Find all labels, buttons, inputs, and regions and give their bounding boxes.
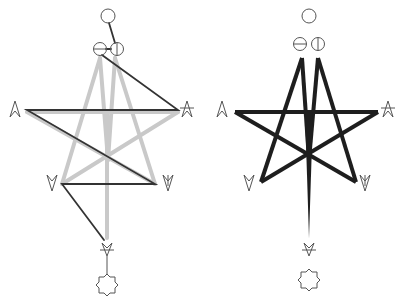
left-arrowhead-barred-icon [180, 101, 194, 117]
left-phi-circle-icon [111, 43, 124, 56]
right-arrowhead-up-icon [217, 101, 227, 117]
left-panel [10, 9, 194, 296]
left-bottom-arrowhead-icon [100, 243, 114, 274]
right-arrowhead-barred-icon [381, 101, 395, 117]
right-arrowhead-down-barred-icon [360, 175, 370, 191]
left-octagram-icon [96, 274, 118, 296]
left-theta-circle-icon [94, 43, 107, 56]
right-top-circle-icon [302, 9, 316, 23]
left-gray-star [27, 58, 178, 238]
right-arrowhead-down-icon [244, 175, 254, 191]
left-arrowhead-down-icon [47, 175, 57, 191]
left-arrowhead-up-icon [10, 101, 20, 117]
right-theta-circle-icon [294, 38, 307, 51]
right-octagram-icon [298, 269, 320, 291]
right-bottom-arrowhead-icon [302, 243, 316, 256]
right-panel [217, 9, 395, 291]
left-arrowhead-down-barred-icon [163, 175, 173, 191]
left-top-circle-icon [101, 9, 115, 23]
diagram-canvas [0, 0, 405, 298]
right-phi-circle-icon [312, 38, 325, 51]
right-spike [305, 112, 313, 238]
left-dark-path [27, 23, 178, 240]
